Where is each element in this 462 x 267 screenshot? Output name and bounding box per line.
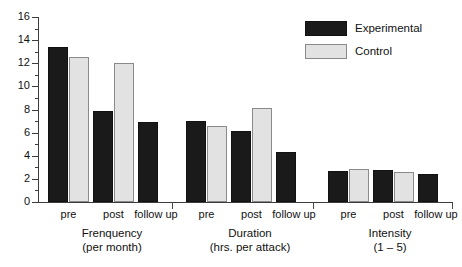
bar-control — [394, 172, 414, 202]
bar-experimental — [231, 131, 251, 202]
group-caption: Duration(hrs. per attack) — [175, 226, 325, 254]
y-tick-label: 10 — [10, 80, 30, 91]
bar-experimental — [373, 170, 393, 202]
bar-experimental — [93, 111, 113, 202]
group-caption-name: Duration — [228, 227, 271, 239]
y-tick-label: 0 — [10, 196, 30, 207]
bar-control — [349, 169, 369, 202]
bar-experimental — [138, 122, 158, 202]
bar-experimental — [186, 121, 206, 202]
legend-swatch-control-icon — [305, 44, 347, 59]
bar-chart: 0246810121416 prepostfollow upprepostfol… — [0, 0, 462, 267]
bar-experimental — [418, 174, 438, 202]
bar-experimental — [276, 152, 296, 202]
y-tick-label: 8 — [10, 104, 30, 115]
group-caption: Intensity(1 – 5) — [315, 226, 462, 254]
bar-control — [252, 108, 272, 202]
x-axis-line — [38, 202, 453, 203]
y-tick-label: 12 — [10, 57, 30, 68]
x-tick-label: follow up — [401, 208, 462, 220]
group-caption-unit: (per month) — [37, 240, 187, 254]
bar-control — [69, 57, 89, 202]
legend-swatch-experimental-icon — [305, 21, 347, 36]
y-tick-major — [32, 202, 39, 203]
bar-experimental — [328, 171, 348, 202]
y-tick-label: 6 — [10, 127, 30, 138]
group-caption-unit: (1 – 5) — [315, 240, 462, 254]
y-tick-label: 2 — [10, 173, 30, 184]
group-caption-unit: (hrs. per attack) — [175, 240, 325, 254]
bar-experimental — [48, 47, 68, 202]
bar-control — [114, 63, 134, 202]
bar-control — [207, 126, 227, 202]
legend-label-control: Control — [355, 45, 392, 58]
group-caption-name: Frenquency — [82, 227, 143, 239]
group-caption-name: Intensity — [369, 227, 412, 239]
y-tick-label: 14 — [10, 34, 30, 45]
y-tick-label: 4 — [10, 150, 30, 161]
y-tick-label: 16 — [10, 11, 30, 22]
group-caption: Frenquency(per month) — [37, 226, 187, 254]
legend-label-experimental: Experimental — [355, 22, 422, 35]
